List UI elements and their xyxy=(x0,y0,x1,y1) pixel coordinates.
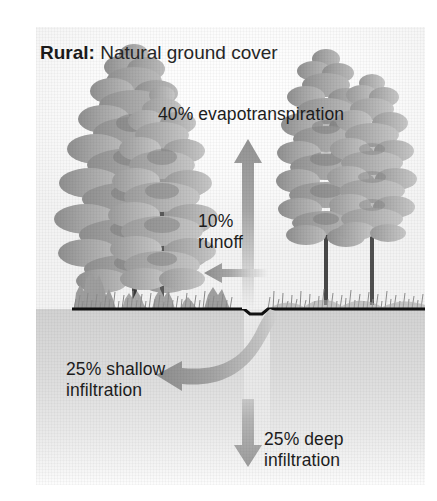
title-emphasis: Rural: xyxy=(40,42,95,63)
diagram-panel: Rural: Natural ground cover 40% evapotra… xyxy=(36,27,425,485)
label-shallow-infiltration: 25% shallow infiltration xyxy=(66,359,165,401)
water-cycle-diagram: Rural: Natural ground cover 40% evapotra… xyxy=(0,0,437,501)
title-rest: Natural ground cover xyxy=(95,42,278,63)
label-deep-infiltration: 25% deep infiltration xyxy=(264,429,344,471)
label-runoff: 10% runoff xyxy=(198,211,243,253)
page-title: Rural: Natural ground cover xyxy=(40,42,278,64)
label-evapotranspiration: 40% evapotranspiration xyxy=(158,104,344,125)
sky-background xyxy=(36,27,425,309)
